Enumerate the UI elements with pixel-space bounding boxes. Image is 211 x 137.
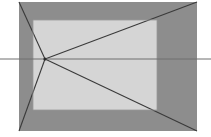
inner-rectangle-face [33, 20, 157, 110]
perspective-canvas [0, 0, 211, 137]
perspective-diagram [0, 0, 211, 137]
vanishing-point [43, 57, 46, 60]
